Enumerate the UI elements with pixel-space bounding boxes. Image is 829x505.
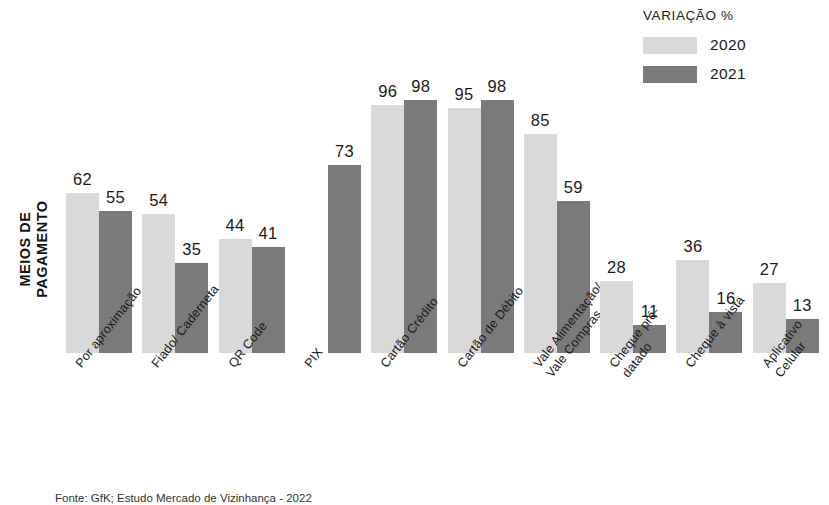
value-label-2020-8: 36 (670, 237, 715, 256)
value-label-2020-7: 28 (594, 258, 639, 277)
value-label-2021-1: 35 (169, 240, 214, 259)
value-label-2020-9: 27 (747, 260, 792, 279)
bar-2020-0 (66, 193, 99, 353)
value-label-2021-5: 98 (475, 77, 520, 96)
value-label-2021-3: 73 (322, 142, 367, 161)
plot-area: 6255Por aproximação5435Fiado/ Caderneta4… (0, 0, 829, 505)
value-label-2021-4: 98 (398, 77, 443, 96)
value-label-2021-0: 55 (93, 188, 138, 207)
bar-2021-3 (328, 165, 361, 353)
value-label-2020-6: 85 (518, 111, 563, 130)
bar-2020-5 (448, 108, 481, 353)
value-label-2020-0: 62 (60, 170, 105, 189)
value-label-2021-2: 41 (246, 224, 291, 243)
category-label-3: PIX (301, 345, 327, 371)
source-note: Fonte: GfK; Estudo Mercado de Vizinhança… (55, 492, 312, 504)
bar-chart: MEIOS DE PAGAMENTO VARIAÇÃO % 2020 2021 … (0, 0, 829, 505)
bar-2020-4 (371, 105, 404, 353)
value-label-2021-6: 59 (551, 178, 596, 197)
bar-2020-6 (524, 134, 557, 353)
value-label-2020-1: 54 (136, 191, 181, 210)
